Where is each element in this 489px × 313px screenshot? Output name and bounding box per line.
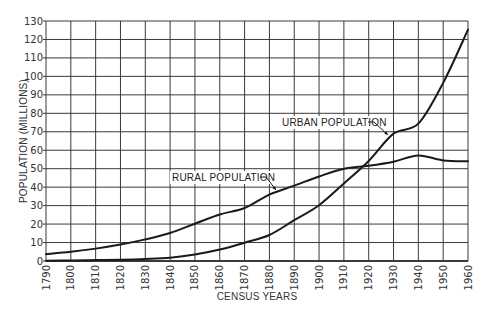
x-tick-label: 1810	[90, 265, 101, 290]
x-tick-label: 1800	[65, 265, 76, 290]
x-tick-label: 1850	[189, 265, 200, 290]
y-tick-label: 50	[30, 163, 43, 174]
x-tick-label: 1900	[314, 265, 325, 290]
rural-population-label: RURAL POPULATION	[172, 172, 275, 183]
y-tick-label: 70	[30, 126, 43, 137]
x-tick-label: 1870	[239, 265, 250, 290]
x-tick-label: 1820	[115, 265, 126, 290]
x-tick-label: 1920	[363, 265, 374, 290]
x-axis-title: CENSUS YEARS	[217, 291, 298, 302]
y-tick-label: 20	[30, 219, 43, 230]
y-tick-label: 120	[24, 34, 43, 45]
y-tick-label: 80	[30, 108, 43, 119]
y-tick-label: 40	[30, 182, 43, 193]
y-tick-label: 110	[24, 52, 43, 63]
x-tick-label: 1940	[413, 265, 424, 290]
x-tick-label: 1890	[289, 265, 300, 290]
x-tick-label: 1880	[264, 265, 275, 290]
y-tick-label: 30	[30, 200, 43, 211]
y-tick-label: 0	[37, 256, 43, 267]
x-tick-label: 1840	[165, 265, 176, 290]
y-tick-label: 90	[30, 89, 43, 100]
y-tick-label: 130	[24, 16, 43, 27]
y-axis-title: POPULATION (MILLIONS)	[18, 79, 29, 203]
y-tick-label: 60	[30, 145, 43, 156]
population-line-chart: 0102030405060708090100110120130 17901800…	[0, 0, 489, 313]
x-tick-label: 1830	[140, 265, 151, 290]
y-tick-label: 10	[30, 237, 43, 248]
x-tick-label: 1910	[338, 265, 349, 290]
x-tick-label: 1950	[438, 265, 449, 290]
x-tick-label: 1790	[41, 265, 52, 290]
x-tick-label: 1930	[388, 265, 399, 290]
x-tick-label: 1960	[463, 265, 474, 290]
x-tick-label: 1860	[214, 265, 225, 290]
